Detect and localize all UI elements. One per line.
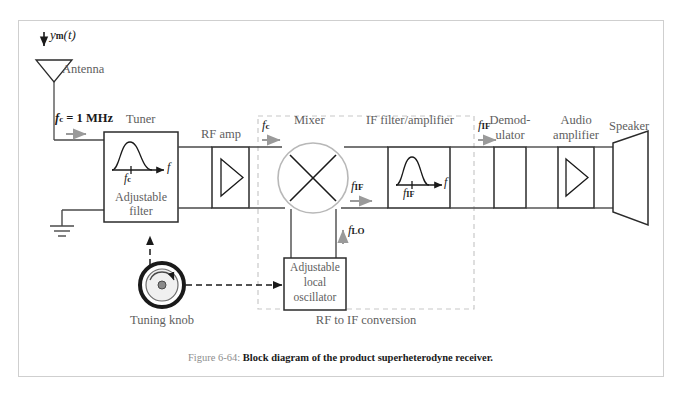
- demodulator-label-line2: ulator: [476, 128, 544, 143]
- input-signal-arg: (t): [64, 27, 76, 42]
- figure-page: ym(t) Antenna fc = 1 MHz Tuner fc f Adju…: [0, 0, 681, 397]
- audio-amplifier-label-line2: amplifier: [542, 128, 610, 143]
- figure-caption-text: Block diagram of the product superhetero…: [243, 352, 493, 363]
- demodulator-block[interactable]: [494, 147, 526, 208]
- block-diagram-canvas: [0, 0, 681, 397]
- tuner-curve-axis-label: f: [167, 160, 170, 175]
- figure-number: Figure 6-64:: [188, 352, 240, 363]
- figure-caption: Figure 6-64: Block diagram of the produc…: [0, 352, 681, 363]
- local-oscillator-label-line1: Adjustable: [284, 261, 346, 273]
- antenna-label: Antenna: [62, 62, 104, 77]
- fc-signal-label: fc: [262, 118, 269, 133]
- tuning-knob-label: Tuning knob: [112, 313, 212, 328]
- audio-amplifier-label-line1: Audio: [542, 113, 610, 128]
- if-filter-amplifier-block[interactable]: [388, 147, 450, 208]
- carrier-frequency-label: fc = 1 MHz: [55, 111, 113, 126]
- mixer-label: Mixer: [294, 113, 325, 128]
- speaker-block[interactable]: [613, 131, 648, 225]
- input-signal-sub: m: [56, 31, 64, 41]
- input-signal-label: ym(t): [50, 27, 76, 43]
- local-oscillator-label-line2: local: [284, 276, 346, 288]
- if-curve-fif-label: fIF: [403, 187, 414, 199]
- tuning-knob-icon[interactable]: [140, 263, 184, 307]
- speaker-label: Speaker: [609, 119, 649, 134]
- fif-signal-label: fIF: [351, 179, 363, 194]
- flo-signal-label: fLO: [348, 223, 365, 238]
- rf-amp-label: RF amp: [201, 127, 241, 142]
- if-filter-amplifier-label: IF filter/amplifier: [366, 113, 454, 128]
- rf-to-if-conversion-label: RF to IF conversion: [258, 313, 474, 328]
- tuner-label: Tuner: [126, 112, 155, 127]
- tuner-inner-label-line2: filter: [104, 204, 178, 219]
- tuner-inner-label-line1: Adjustable: [104, 190, 178, 205]
- tuner-curve-fc-label: fc: [124, 172, 131, 184]
- demodulator-label-line1: Demod-: [476, 113, 544, 128]
- if-curve-axis-label: f: [444, 175, 447, 190]
- local-oscillator-label-line3: oscillator: [284, 291, 346, 303]
- carrier-eq: = 1 MHz: [63, 111, 113, 125]
- ground-symbol-icon: [50, 210, 104, 236]
